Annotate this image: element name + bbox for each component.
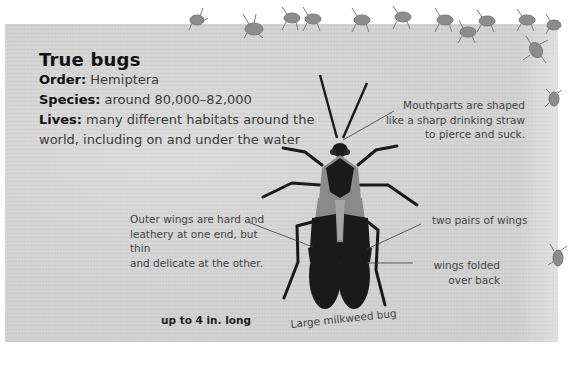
- fact-lives-continued: world, including on and under the water: [39, 132, 300, 147]
- annotation-line: and delicate at the other.: [130, 256, 280, 271]
- fact-species: Species: around 80,000–82,000: [39, 92, 252, 107]
- annotation-line: to pierce and suck.: [380, 127, 525, 142]
- size-label: up to 4 in. long: [161, 314, 251, 326]
- small-bug-icon: [517, 9, 535, 31]
- fact-order: Order: Hemiptera: [39, 72, 159, 87]
- annotation-line: leathery at one end, but thin: [130, 227, 280, 256]
- fact-lives: Lives: many different habitats around th…: [39, 112, 314, 127]
- fact-order-value: Hemiptera: [86, 72, 159, 87]
- small-bug-icon: [243, 14, 263, 38]
- small-bug-icon: [523, 36, 548, 63]
- annotation-line: over back: [425, 273, 500, 288]
- annotation-line: wings folded: [425, 258, 500, 273]
- fact-species-value: around 80,000–82,000: [100, 92, 251, 107]
- page-title: True bugs: [39, 49, 141, 70]
- small-bug-icon: [352, 8, 370, 32]
- annotation-line: Outer wings are hard and: [130, 212, 280, 227]
- annotation-wings-folded: wings folded over back: [425, 258, 500, 287]
- annotation-line: like a sharp drinking straw: [380, 113, 525, 128]
- small-bug-icon: [435, 8, 453, 32]
- fact-order-label: Order:: [39, 72, 86, 87]
- small-bug-icon: [477, 10, 495, 32]
- fact-lives-value: many different habitats around the: [82, 112, 314, 127]
- annotation-outer-wings: Outer wings are hard and leathery at one…: [130, 212, 280, 270]
- annotation-mouthparts: Mouthparts are shaped like a sharp drink…: [380, 98, 525, 142]
- fact-lives-value-line2: world, including on and under the water: [39, 132, 300, 147]
- fact-species-label: Species:: [39, 92, 100, 107]
- small-bug-icon: [546, 14, 561, 34]
- fact-lives-label: Lives:: [39, 112, 82, 127]
- small-bug-icon: [393, 6, 411, 29]
- small-bug-icon: [282, 7, 300, 30]
- small-bug-icon: [189, 8, 208, 30]
- annotation-two-pairs-of-wings: two pairs of wings: [432, 213, 527, 228]
- small-bug-icon: [545, 89, 562, 107]
- small-bug-icon: [458, 20, 476, 43]
- small-bug-icon: [303, 7, 321, 31]
- small-bug-icon: [548, 244, 567, 266]
- annotation-line: Mouthparts are shaped: [380, 98, 525, 113]
